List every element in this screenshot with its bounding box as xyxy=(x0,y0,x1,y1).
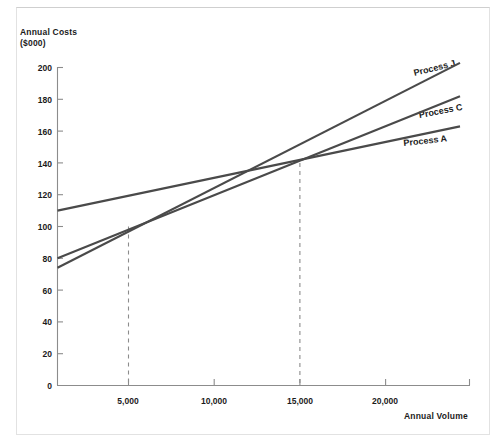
series-line-process-a xyxy=(58,126,461,210)
x-axis-ticks xyxy=(129,379,470,386)
chart-page: Annual Costs ($000) Annual Volume 200 18… xyxy=(0,0,497,444)
chart-plot-svg xyxy=(0,0,497,444)
series-line-process-c xyxy=(58,96,461,258)
series-line-process-j xyxy=(58,63,461,268)
